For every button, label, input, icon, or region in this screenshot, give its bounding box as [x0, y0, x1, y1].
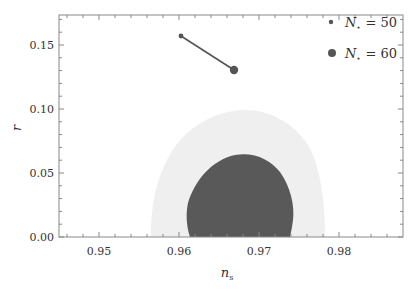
x-tick-label: 0.96 — [167, 245, 192, 258]
chart: 0.95 0.96 0.97 0.98 0.00 0.05 0.10 0.15 … — [0, 0, 414, 293]
y-tick-label: 0.10 — [30, 103, 55, 116]
y-tick-label: 0.00 — [30, 231, 55, 244]
x-tick-label: 0.97 — [247, 245, 272, 258]
legend-label-n50: N⋆ = 50 — [344, 15, 397, 32]
x-axis-label: ns — [221, 265, 233, 282]
x-tick-labels: 0.95 0.96 0.97 0.98 — [87, 245, 352, 258]
y-tick-label: 0.15 — [30, 39, 55, 52]
y-tick-labels: 0.00 0.05 0.10 0.15 — [30, 39, 55, 244]
marker-n60 — [230, 66, 238, 74]
plot-area — [151, 34, 325, 237]
n-star-line — [181, 36, 234, 70]
x-tick-label: 0.95 — [87, 245, 112, 258]
y-axis-label: r — [9, 124, 24, 131]
legend-marker-n50 — [329, 20, 333, 24]
marker-n50 — [179, 34, 184, 39]
y-tick-label: 0.05 — [30, 167, 55, 180]
legend-label-n60: N⋆ = 60 — [344, 46, 397, 63]
legend: N⋆ = 50 N⋆ = 60 — [328, 15, 397, 63]
x-tick-label: 0.98 — [327, 245, 352, 258]
legend-marker-n60 — [328, 49, 336, 57]
